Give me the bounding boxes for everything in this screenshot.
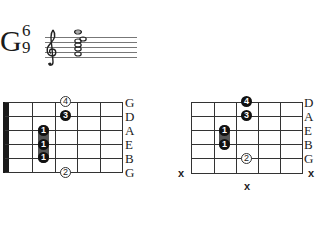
finger-marker: 4 xyxy=(60,96,71,107)
string-line xyxy=(5,158,123,159)
string-line xyxy=(191,144,303,145)
string-label: B xyxy=(125,152,134,165)
string-line xyxy=(191,173,303,174)
mute-mark-icon: x xyxy=(178,168,184,179)
string-label: A xyxy=(304,110,313,123)
fret-line xyxy=(214,102,215,174)
mute-mark-icon: x xyxy=(308,168,314,179)
string-label: D xyxy=(304,96,313,109)
fret-line xyxy=(77,102,78,173)
chord-superscript: 6 xyxy=(22,22,31,39)
chord-notes-icon xyxy=(72,28,90,60)
finger-marker: 2 xyxy=(60,167,71,178)
chord-root: G xyxy=(0,26,22,56)
finger-marker: 2 xyxy=(241,153,252,164)
finger-marker: 1 xyxy=(38,139,49,150)
chord-subscript: 9 xyxy=(22,39,31,56)
mute-mark-icon: x xyxy=(244,181,250,192)
fret-line xyxy=(191,102,192,174)
fret-line xyxy=(280,102,281,174)
string-label: E xyxy=(125,138,133,151)
string-label: B xyxy=(304,138,313,151)
string-label: D xyxy=(125,110,134,123)
fret-line xyxy=(55,102,56,173)
string-label: G xyxy=(304,152,313,165)
finger-marker: 1 xyxy=(38,152,49,163)
string-label: A xyxy=(125,124,134,137)
fret-line xyxy=(100,102,101,173)
finger-marker: 3 xyxy=(60,110,71,121)
finger-marker: 1 xyxy=(219,125,230,136)
string-line xyxy=(5,144,123,145)
fret-line xyxy=(122,102,123,173)
fret-line xyxy=(236,102,237,174)
string-label: G xyxy=(125,166,134,179)
string-line xyxy=(191,130,303,131)
finger-marker: 1 xyxy=(219,139,230,150)
fret-line xyxy=(258,102,259,174)
string-label: E xyxy=(304,124,312,137)
string-label: G xyxy=(125,96,134,109)
finger-marker: 1 xyxy=(38,125,49,136)
finger-marker: 3 xyxy=(241,110,252,121)
finger-marker: 4 xyxy=(241,96,252,107)
fret-line xyxy=(302,102,303,174)
nut xyxy=(3,102,9,173)
fret-line xyxy=(32,102,33,173)
string-line xyxy=(5,130,123,131)
treble-clef-icon xyxy=(44,28,60,68)
